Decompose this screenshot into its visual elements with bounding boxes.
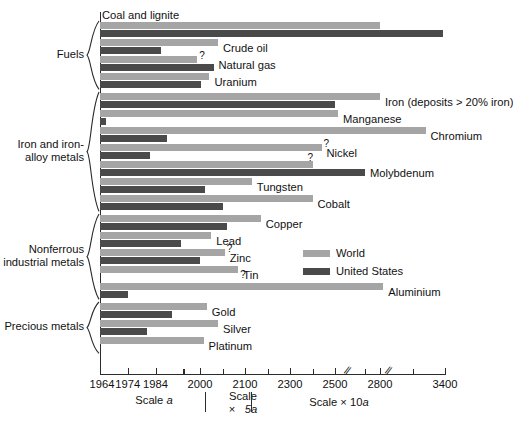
scale-divider xyxy=(251,392,252,412)
bar-world xyxy=(100,110,338,117)
legend-swatch xyxy=(303,250,330,257)
group-brace xyxy=(86,20,99,90)
x-tick-major xyxy=(128,368,129,375)
plot-area: Coal and ligniteCrude oilNatural gas?Ura… xyxy=(100,12,472,370)
group-label: Iron and iron- alloy metals xyxy=(0,138,84,164)
bar-label: Nickel xyxy=(327,148,357,159)
group-brace xyxy=(86,91,99,212)
x-tick-major xyxy=(245,368,246,375)
bar-united-states xyxy=(100,47,161,54)
bar-world xyxy=(100,127,426,134)
x-tick-major xyxy=(100,368,101,375)
x-tick-label: 2000 xyxy=(188,378,213,390)
x-tick-major xyxy=(380,368,381,375)
bar-world xyxy=(100,195,313,202)
scale-caption-10a: Scale × 10a xyxy=(284,396,394,409)
bar-united-states xyxy=(100,328,147,335)
chart-row: Cobalt xyxy=(100,195,472,212)
bar-label: Manganese xyxy=(343,114,401,125)
chart-row: Crude oil xyxy=(100,39,472,56)
bar-label: Copper xyxy=(266,219,303,230)
chart-row: Nickel? xyxy=(100,144,472,161)
chart-row: Silver xyxy=(100,320,472,337)
x-tick-minor xyxy=(313,369,314,374)
chart-row: Iron (deposits > 20% iron) xyxy=(100,93,472,110)
chart-row: Tin? xyxy=(100,266,472,283)
legend-label: World xyxy=(336,247,365,259)
x-tick-minor xyxy=(413,369,414,374)
chart-row: Molybdenum? xyxy=(100,161,472,178)
group-label: Precious metals xyxy=(0,320,84,333)
chart-row: Platinum xyxy=(100,337,472,354)
chart-row: Zinc? xyxy=(100,249,472,266)
x-tick-label: 3400 xyxy=(433,378,458,390)
bar-united-states xyxy=(100,101,335,108)
bar-world xyxy=(100,337,204,344)
legend-label: United States xyxy=(336,265,403,277)
bar-label: Cobalt xyxy=(318,199,350,210)
bar-united-states xyxy=(100,203,223,210)
bar-label: Uranium xyxy=(214,77,256,88)
bar-world xyxy=(100,93,380,100)
bar-label: Tungsten xyxy=(257,182,303,193)
bar-united-states xyxy=(100,64,214,71)
chart-row: Aluminium xyxy=(100,283,472,300)
bar-world xyxy=(100,320,218,327)
chart-row: Lead xyxy=(100,232,472,249)
bar-united-states xyxy=(100,240,181,247)
x-tick-major xyxy=(445,368,446,375)
legend-swatch xyxy=(303,268,330,275)
bar-label: Chromium xyxy=(431,131,483,142)
x-tick-major xyxy=(200,368,201,375)
uncertainty-marker: ? xyxy=(199,51,205,61)
x-tick-label: 2300 xyxy=(278,378,303,390)
bar-world xyxy=(100,73,209,80)
uncertainty-marker: ? xyxy=(227,244,233,254)
bar-label: Coal and lignite xyxy=(102,10,179,21)
x-axis-line xyxy=(100,374,445,375)
uncertainty-marker: ? xyxy=(240,270,246,280)
x-tick-major xyxy=(335,368,336,375)
x-tick-label: 1964 xyxy=(90,378,115,390)
bar-united-states xyxy=(100,81,201,88)
group-brace xyxy=(86,301,99,354)
x-tick-minor xyxy=(268,369,269,374)
bar-world xyxy=(100,232,211,239)
chart-row: Chromium xyxy=(100,127,472,144)
chart-row: Tungsten xyxy=(100,178,472,195)
scale-divider xyxy=(205,392,206,412)
bar-world xyxy=(100,22,380,29)
chart-row: Gold xyxy=(100,303,472,320)
uncertainty-marker: ? xyxy=(308,153,314,163)
bar-world xyxy=(100,178,252,185)
bar-united-states xyxy=(100,152,150,159)
chart-row: Coal and lignite xyxy=(100,22,472,39)
x-tick-minor xyxy=(223,369,224,374)
bar-united-states xyxy=(100,223,227,230)
bar-world xyxy=(100,303,207,310)
x-tick-label: 2500 xyxy=(323,378,348,390)
bar-united-states xyxy=(100,118,106,125)
bar-world xyxy=(100,56,197,63)
bar-world xyxy=(100,39,218,46)
bar-world xyxy=(100,249,225,256)
bar-world xyxy=(100,144,322,151)
bar-united-states xyxy=(100,311,172,318)
bar-label: Iron (deposits > 20% iron) xyxy=(385,97,513,108)
x-tick-major xyxy=(156,368,157,375)
bar-label: Gold xyxy=(212,307,236,318)
bar-label: Platinum xyxy=(209,341,253,352)
x-tick-minor xyxy=(183,369,184,374)
chart-row: Uranium xyxy=(100,73,472,90)
bar-label: Crude oil xyxy=(223,43,268,54)
uncertainty-marker: ? xyxy=(324,139,330,149)
bar-united-states xyxy=(100,257,200,264)
bar-label: Aluminium xyxy=(388,287,440,298)
group-brace xyxy=(86,213,99,300)
bar-world xyxy=(100,161,313,168)
bar-label: Zinc xyxy=(230,253,251,264)
bar-world xyxy=(100,283,383,290)
bar-world xyxy=(100,215,261,222)
group-label: Nonferrous industrial metals xyxy=(0,243,84,269)
